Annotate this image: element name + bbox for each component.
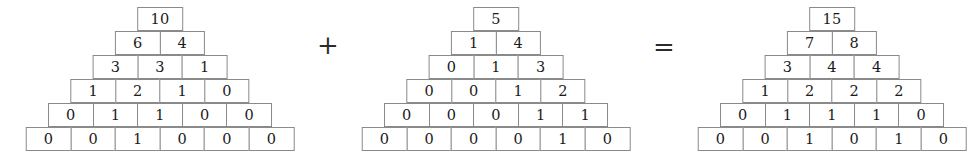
pyramid-cell: 5 [473, 7, 519, 31]
pyramid-cell: 0 [70, 127, 116, 151]
pyramid-cell: 1 [70, 79, 116, 103]
pyramid-cell: 3 [765, 55, 811, 79]
pyramid-row: 01110 [720, 104, 944, 128]
pyramid-row: 78 [787, 32, 877, 56]
pyramid-cell: 2 [832, 79, 878, 103]
pyramid-cell: 0 [496, 127, 542, 151]
pyramid-cell: 1 [765, 103, 811, 127]
pyramid-cell: 10 [137, 7, 183, 31]
pyramid-cell: 3 [518, 55, 564, 79]
left-spacer [0, 80, 18, 81]
pyramid-cell: 1 [787, 127, 833, 151]
pyramid-cell: 0 [832, 127, 878, 151]
pyramid-cell: 1 [876, 127, 922, 151]
pyramid-cell: 0 [473, 103, 519, 127]
pyramid-cell: 1 [540, 127, 586, 151]
pyramid-cell: 1 [160, 79, 206, 103]
pyramid-cell: 0 [160, 127, 206, 151]
pyramid-row: 01100 [48, 104, 272, 128]
pyramid-cell: 1 [93, 103, 139, 127]
pyramid-row: 344 [765, 56, 900, 80]
equals-operator: = [638, 0, 690, 161]
pyramid-cell: 0 [698, 127, 744, 151]
pyramid-cell: 7 [787, 31, 833, 55]
pyramid-row: 00011 [384, 104, 608, 128]
pyramid-cell: 0 [451, 79, 497, 103]
pyramid-cell: 0 [451, 127, 497, 151]
pyramid-first-addend: 1064331121001100001000 [18, 0, 302, 161]
pyramid-cell: 0 [26, 127, 72, 151]
pyramid-cell: 1 [518, 103, 564, 127]
pyramid-cell: 0 [182, 103, 228, 127]
pyramid-cell: 0 [898, 103, 944, 127]
pyramid-cell: 0 [48, 103, 94, 127]
pyramid-cell: 15 [809, 7, 855, 31]
pyramid-cell: 0 [384, 103, 430, 127]
pyramid-cell: 3 [93, 55, 139, 79]
pyramid-second-addend: 514013001200011000010 [354, 0, 638, 161]
pyramid-row: 5 [473, 8, 519, 32]
pyramid-cell: 4 [496, 31, 542, 55]
pyramid-row: 000010 [362, 128, 631, 152]
pyramid-row: 001010 [698, 128, 967, 152]
pyramid-row: 1222 [742, 80, 921, 104]
pyramid-cell: 1 [809, 103, 855, 127]
pyramid-cell: 0 [226, 103, 272, 127]
pyramid-cell: 0 [249, 127, 295, 151]
pyramid-cell: 4 [160, 31, 206, 55]
pyramid-cell: 0 [204, 127, 250, 151]
pyramid-row: 001000 [26, 128, 295, 152]
number-pyramid-figure: 1064331121001100001000 + 514013001200011… [0, 0, 976, 161]
pyramid-cell: 0 [406, 79, 452, 103]
pyramid-cell: 0 [362, 127, 408, 151]
pyramid-cell: 0 [406, 127, 452, 151]
pyramid-cell: 3 [137, 55, 183, 79]
pyramid-cell: 2 [787, 79, 833, 103]
pyramid-cell: 6 [115, 31, 161, 55]
pyramid-cell: 0 [720, 103, 766, 127]
pyramid-cell: 2 [876, 79, 922, 103]
plus-operator: + [302, 0, 354, 161]
pyramid-cell: 0 [429, 55, 475, 79]
pyramid-row: 1210 [70, 80, 249, 104]
pyramid-row: 15 [809, 8, 855, 32]
pyramid-row: 64 [115, 32, 205, 56]
pyramid-cell: 0 [429, 103, 475, 127]
pyramid-cell: 0 [921, 127, 967, 151]
pyramid-cell: 2 [540, 79, 586, 103]
pyramid-cell: 1 [854, 103, 900, 127]
pyramid-cell: 1 [115, 127, 161, 151]
pyramid-cell: 4 [854, 55, 900, 79]
pyramid-cell: 1 [451, 31, 497, 55]
pyramid-sum-result: 1578344122201110001010 [690, 0, 974, 161]
pyramid-cell: 4 [809, 55, 855, 79]
pyramid-cell: 0 [742, 127, 788, 151]
pyramid-cell: 1 [137, 103, 183, 127]
pyramid-row: 013 [429, 56, 564, 80]
pyramid-cell: 1 [496, 79, 542, 103]
pyramid-cell: 1 [562, 103, 608, 127]
pyramid-cell: 8 [832, 31, 878, 55]
pyramid-cell: 1 [182, 55, 228, 79]
pyramid-row: 10 [137, 8, 183, 32]
pyramid-cell: 1 [742, 79, 788, 103]
pyramid-row: 14 [451, 32, 541, 56]
pyramid-row: 331 [93, 56, 228, 80]
pyramid-cell: 2 [115, 79, 161, 103]
pyramid-cell: 1 [473, 55, 519, 79]
pyramid-row: 0012 [406, 80, 585, 104]
pyramid-cell: 0 [204, 79, 250, 103]
pyramid-cell: 0 [585, 127, 631, 151]
